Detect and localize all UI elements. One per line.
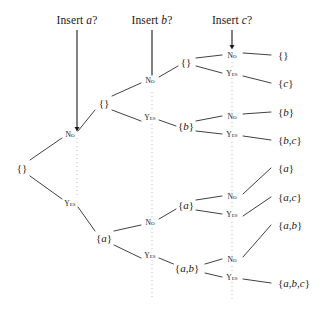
edge-yn-b <box>196 210 222 214</box>
edge-yes-yn <box>114 225 141 231</box>
edge-label-e-yyn: No <box>226 255 238 264</box>
tree-leaf-leaf-6: {a,c} <box>278 191 302 203</box>
edge-label-e-yny: Yes <box>225 210 239 219</box>
edge-label-e-ynn: No <box>226 192 238 201</box>
tree-leaf-leaf-7: {a,b} <box>278 219 302 231</box>
tree-leaf-leaf-8: {a,b,c} <box>278 277 310 289</box>
edge-label-e-nyn: No <box>226 112 238 121</box>
tree-leaf-leaf-4: {b,c} <box>278 134 302 146</box>
edge-l3 <box>243 112 271 114</box>
edge-label-e-yyy: Yes <box>225 273 239 282</box>
edge-label-e-yy: Yes <box>143 251 157 260</box>
edge-l6 <box>243 197 271 216</box>
edge-label-e-yn: No <box>144 218 156 227</box>
edge-l7 <box>243 225 271 257</box>
edge-label-e-no: No <box>64 130 76 139</box>
tree-node-n-yy: {a,b} <box>174 262 200 274</box>
tree-node-root: {} <box>16 162 29 174</box>
edge-ny-a <box>196 116 222 121</box>
header-item-letter: b <box>161 14 167 26</box>
column-header-insert-c: Insert c? <box>212 14 252 26</box>
column-header-insert-b: Insert b? <box>132 14 173 26</box>
edge-labno-nn <box>78 110 95 131</box>
edge-label-e-nny: Yes <box>225 69 239 78</box>
tree-node-n-no: {} <box>98 97 111 109</box>
edge-labyes <box>78 207 95 231</box>
tree-leaf-leaf-3: {b} <box>278 106 294 118</box>
edge-label-e-nnn: No <box>226 51 238 60</box>
tree-node-n-yn: {a} <box>177 199 195 211</box>
edge-l5 <box>243 168 271 194</box>
edge-lnn-nn <box>159 66 178 77</box>
edge-no-ny <box>112 110 141 121</box>
header-item-letter: a <box>86 14 92 26</box>
edge-l2 <box>243 76 271 83</box>
header-item-letter: c <box>242 14 247 26</box>
edge-label-e-nyy: Yes <box>225 130 239 139</box>
tree-node-n-ny: {b} <box>177 120 195 132</box>
tree-branches <box>30 53 271 283</box>
edge-root-no <box>30 138 62 160</box>
edge-yy-a <box>205 259 222 264</box>
edge-l1 <box>243 53 271 55</box>
edge-yy-b <box>205 273 222 277</box>
column-header-insert-a: Insert a? <box>57 14 98 26</box>
tree-leaf-leaf-5: {a} <box>278 162 294 174</box>
edge-l4 <box>243 136 271 140</box>
edge-nn-b <box>196 66 222 73</box>
edge-nn-a <box>196 55 222 58</box>
tree-edges-layer <box>0 0 334 312</box>
edge-l8 <box>243 279 271 283</box>
edge-label-e-nn: No <box>144 76 156 85</box>
edge-lyn-yn <box>159 209 176 219</box>
edge-lny-ny <box>159 120 176 126</box>
tree-leaf-leaf-2: {c} <box>278 77 293 89</box>
edge-root-yes <box>30 176 62 199</box>
tree-node-n-yes: {a} <box>95 232 113 244</box>
edge-ny-b <box>196 131 222 134</box>
tree-leaf-leaf-1: {} <box>278 49 289 61</box>
edge-label-e-ny: Yes <box>143 113 157 122</box>
edge-label-e-yes: Yes <box>63 199 77 208</box>
edge-no-nn <box>112 83 141 96</box>
edge-yn-a <box>196 196 222 200</box>
tree-node-n-nn: {} <box>180 56 193 68</box>
decision-tree-figure: Insert a?Insert b?Insert c? {}{}{a}{}{b}… <box>0 0 334 312</box>
edge-yes-yy <box>114 245 141 258</box>
